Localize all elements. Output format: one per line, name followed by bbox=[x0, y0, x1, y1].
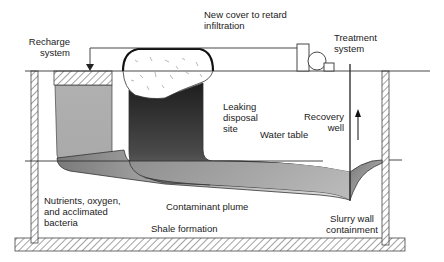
label-new-cover: New cover to retard infiltration bbox=[204, 9, 287, 31]
label-treatment-system: Treatment system bbox=[334, 32, 377, 54]
arrow-up-icon bbox=[355, 109, 361, 117]
label-shale-formation: Shale formation bbox=[151, 223, 218, 234]
shale-formation bbox=[15, 238, 405, 251]
label-nutrients: Nutrients, oxygen, and acclimated bacter… bbox=[44, 195, 121, 228]
label-slurry-wall: Slurry wall containment bbox=[322, 213, 382, 235]
label-leaking-disposal-site: Leaking disposal site bbox=[223, 101, 258, 134]
arrow-down-icon bbox=[86, 64, 94, 71]
slurry-wall-left bbox=[31, 71, 38, 243]
label-contaminant-plume: Contaminant plume bbox=[166, 201, 248, 212]
cone-of-depression bbox=[350, 160, 382, 200]
label-water-table: Water table bbox=[260, 129, 308, 140]
recharge-basin bbox=[54, 71, 112, 85]
slurry-wall-right bbox=[382, 71, 389, 245]
label-recharge-system: Recharge system bbox=[20, 36, 70, 58]
treatment-system bbox=[297, 44, 334, 71]
